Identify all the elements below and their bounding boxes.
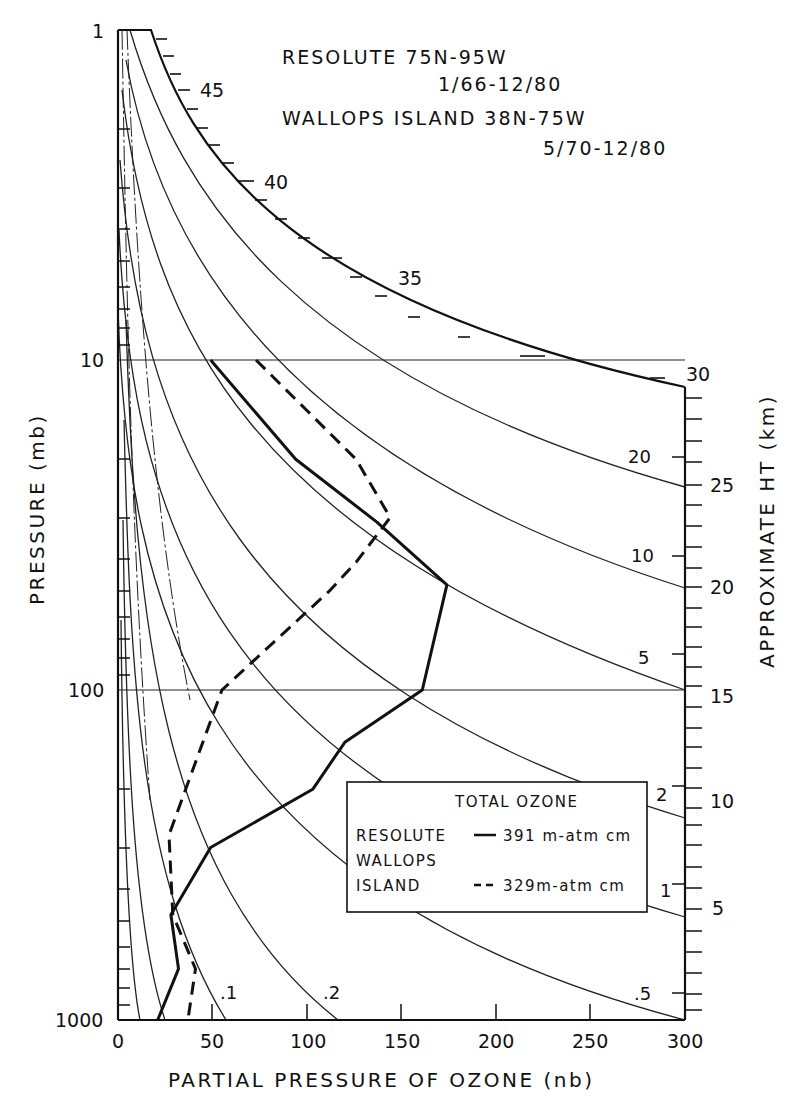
x-tick-150: 150 bbox=[384, 1030, 420, 1052]
km-label-45: 45 bbox=[200, 79, 224, 101]
legend-resolute-label: RESOLUTE bbox=[356, 827, 446, 845]
km-label-10: 10 bbox=[710, 790, 734, 812]
y-tick-1: 1 bbox=[92, 20, 104, 42]
x-axis-ticks bbox=[212, 1004, 590, 1020]
x-tick-200: 200 bbox=[478, 1030, 514, 1052]
km-label-40: 40 bbox=[264, 171, 288, 193]
x-axis-title: PARTIAL PRESSURE OF OZONE (nb) bbox=[168, 1068, 594, 1092]
x-tick-100: 100 bbox=[290, 1030, 326, 1052]
iso-label-20: 20 bbox=[628, 446, 651, 467]
isoline-2 bbox=[120, 160, 685, 818]
x-tick-300: 300 bbox=[667, 1030, 703, 1052]
isoline-dashdot-a bbox=[127, 30, 190, 700]
title-line-2: 1/66-12/80 bbox=[438, 73, 562, 95]
iso-label-2: 2 bbox=[656, 784, 667, 805]
isoline-003 bbox=[121, 620, 140, 1020]
ozone-profile-chart: RESOLUTE 75N-95W 1/66-12/80 WALLOPS ISLA… bbox=[0, 0, 792, 1109]
title-line-1: RESOLUTE 75N-95W bbox=[282, 46, 508, 68]
y2-axis-title: APPROXIMATE HT (km) bbox=[755, 394, 779, 668]
iso-label-5: 5 bbox=[638, 647, 649, 668]
x-tick-50: 50 bbox=[200, 1030, 224, 1052]
y-axis-title: PRESSURE (mb) bbox=[25, 413, 49, 605]
y-tick-100: 100 bbox=[68, 679, 104, 701]
legend-wallops-label-2: ISLAND bbox=[356, 877, 421, 895]
legend-wallops-label-1: WALLOPS bbox=[356, 852, 437, 870]
km-label-30: 30 bbox=[686, 363, 710, 385]
iso-label-10: 10 bbox=[631, 545, 654, 566]
y-tick-10: 10 bbox=[80, 349, 104, 371]
km-label-25: 25 bbox=[710, 474, 734, 496]
legend-title: TOTAL OZONE bbox=[454, 793, 578, 811]
iso-label-1: 1 bbox=[660, 880, 671, 901]
y-axis-right-ticks bbox=[672, 398, 702, 1010]
x-tick-0: 0 bbox=[112, 1030, 124, 1052]
km-label-15: 15 bbox=[710, 685, 734, 707]
title-line-4: 5/70-12/80 bbox=[543, 137, 667, 159]
km-label-20: 20 bbox=[710, 576, 734, 598]
iso-label-02: .2 bbox=[323, 982, 340, 1003]
x-tick-250: 250 bbox=[572, 1030, 608, 1052]
y-tick-1000: 1000 bbox=[55, 1009, 103, 1031]
km-label-5: 5 bbox=[712, 897, 724, 919]
iso-label-01: .1 bbox=[220, 982, 237, 1003]
isoline-05 bbox=[118, 310, 685, 1020]
legend: TOTAL OZONE RESOLUTE 391 m-atm cm WALLOP… bbox=[347, 782, 647, 912]
iso-label-05: .5 bbox=[634, 983, 651, 1004]
isoline-02 bbox=[126, 320, 338, 1020]
isoline-5 bbox=[122, 90, 685, 690]
title-line-3: WALLOPS ISLAND 38N-75W bbox=[282, 107, 587, 129]
legend-wallops-value: 329m-atm cm bbox=[503, 877, 625, 895]
height-boundary-ticks bbox=[156, 39, 665, 378]
km-label-35: 35 bbox=[398, 267, 422, 289]
legend-resolute-value: 391 m-atm cm bbox=[503, 827, 632, 845]
isoline-01 bbox=[124, 420, 226, 1020]
